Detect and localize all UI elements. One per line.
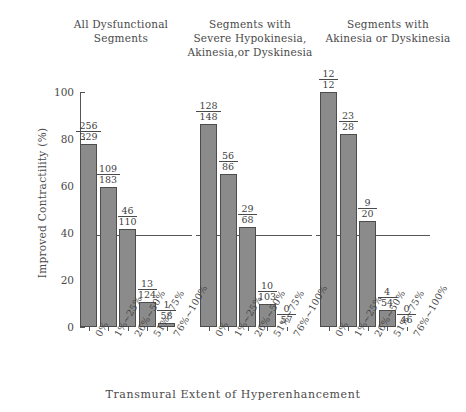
bar-value-fraction: 256329 xyxy=(73,121,105,142)
x-tick xyxy=(387,327,388,331)
y-tick-label-60: 60 xyxy=(40,180,74,192)
fraction-denominator: 183 xyxy=(96,175,120,185)
bar-value-fraction: 128148 xyxy=(193,101,225,122)
bar-value-fraction: 920 xyxy=(352,198,384,219)
chart-figure: All Dysfunctional Segments Segments with… xyxy=(0,0,466,412)
x-tick xyxy=(228,327,229,331)
x-tick xyxy=(209,327,210,331)
fraction-denominator: 110 xyxy=(115,217,139,227)
fraction-denominator: 68 xyxy=(238,215,256,225)
x-tick xyxy=(128,327,129,331)
panel-title-akinesia-dyskinesia: Segments with Akinesia or Dyskinesia xyxy=(312,17,464,45)
bar-value-fraction: 1212 xyxy=(313,69,345,90)
panel-title-severe-hypokinesia: Segments with Severe Hypokinesia, Akines… xyxy=(176,17,324,59)
bar-value-fraction: 109183 xyxy=(92,164,124,185)
x-tick xyxy=(348,327,349,331)
y-tick-label-80: 80 xyxy=(40,133,74,145)
x-axis-label: Transmural Extent of Hyperenhancement xyxy=(0,388,466,401)
x-tick xyxy=(407,327,408,331)
y-tick-label-0: 0 xyxy=(40,321,74,333)
bar-value-fraction: 46110 xyxy=(112,206,144,227)
x-tick xyxy=(248,327,249,331)
x-tick xyxy=(329,327,330,331)
bar-value-fraction: 5686 xyxy=(212,151,244,172)
bar xyxy=(220,174,237,327)
x-tick xyxy=(368,327,369,331)
fraction-denominator: 20 xyxy=(358,209,376,219)
y-tick-label-20: 20 xyxy=(40,274,74,286)
x-tick xyxy=(287,327,288,331)
fraction-denominator: 28 xyxy=(339,122,357,132)
fraction-denominator: 86 xyxy=(219,162,237,172)
bar-value-fraction: 2328 xyxy=(332,111,364,132)
y-tick-label-100: 100 xyxy=(40,86,74,98)
fraction-denominator: 12 xyxy=(319,80,337,90)
fraction-denominator: 148 xyxy=(196,112,220,122)
x-tick xyxy=(167,327,168,331)
x-tick xyxy=(89,327,90,331)
y-tick-label-40: 40 xyxy=(40,227,74,239)
panel-title-all-dysfunctional: All Dysfunctional Segments xyxy=(56,17,186,45)
bar-value-fraction: 2968 xyxy=(232,204,264,225)
x-tick xyxy=(267,327,268,331)
x-tick xyxy=(147,327,148,331)
bar xyxy=(340,134,357,327)
fraction-denominator: 329 xyxy=(76,132,100,142)
x-tick xyxy=(108,327,109,331)
